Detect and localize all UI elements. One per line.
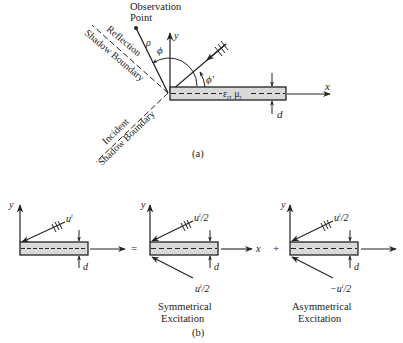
rho-label: ρ (145, 37, 151, 48)
observation-label-2: Point (130, 12, 152, 23)
thickness-label: d (277, 108, 283, 120)
incident-ray-arrow (207, 44, 226, 60)
phi-arc (153, 58, 197, 86)
thickness-label: d (214, 261, 220, 272)
reflection-shadow-boundary-line (92, 25, 168, 93)
wavefront-ticks-icon (321, 220, 331, 231)
symmetric-title-2: Excitation (161, 313, 205, 324)
diagram-canvas: εr, μr x d Observation Point ρ ϕ y ϕ′ Re… (0, 0, 403, 343)
y-axis-label: y (173, 30, 179, 41)
wavefront-ticks-icon (181, 220, 191, 231)
thickness-label: d (354, 261, 360, 272)
panel-asymmetric: y ui/2 −ui/2 d Asymmetrical Excitation (280, 199, 396, 324)
equals-sign: = (131, 242, 137, 254)
observation-line (136, 28, 168, 93)
lower-ray (152, 257, 193, 278)
thickness-label: d (83, 261, 89, 272)
asymmetric-title-1: Asymmetrical (292, 301, 352, 312)
figure-a: εr, μr x d Observation Point ρ ϕ y ϕ′ Re… (83, 1, 330, 167)
y-axis-label: y (140, 199, 146, 210)
panel-symmetric: y ui/2 x ui/2 d Symmetrical Excitation (… (140, 199, 261, 339)
figure-b: y ui d = y ui/2 x (8, 199, 396, 339)
upper-ray (292, 221, 333, 241)
lower-ray-label: ui/2 (195, 283, 209, 294)
caption-a: (a) (192, 148, 204, 160)
caption-b: (b) (192, 327, 205, 339)
wavefront-ticks-icon (215, 41, 228, 56)
plus-sign: + (273, 242, 279, 254)
material-label: εr, μr (223, 88, 242, 100)
asymmetric-title-2: Excitation (298, 313, 342, 324)
upper-ray (152, 221, 193, 241)
phi-label: ϕ (157, 44, 163, 56)
lower-ray-label: −ui/2 (330, 283, 351, 294)
y-axis-label: y (8, 199, 14, 210)
panel-total: y ui d (8, 199, 125, 272)
y-axis-label: y (280, 199, 286, 210)
observation-point-dot (134, 26, 138, 30)
incident-ray (22, 222, 65, 242)
wavefront-ticks-icon (52, 221, 62, 232)
upper-ray-label: ui/2 (194, 212, 208, 223)
lower-ray (292, 257, 333, 278)
x-axis-label: x (324, 80, 330, 92)
phi-prime-label: ϕ′ (206, 73, 215, 85)
incident-label: ui (66, 213, 73, 224)
phi-prime-arc (200, 72, 205, 87)
symmetric-title-1: Symmetrical (158, 301, 212, 312)
x-axis-label: x (255, 243, 261, 254)
observation-label-1: Observation (130, 1, 182, 12)
upper-ray-label: ui/2 (334, 212, 348, 223)
